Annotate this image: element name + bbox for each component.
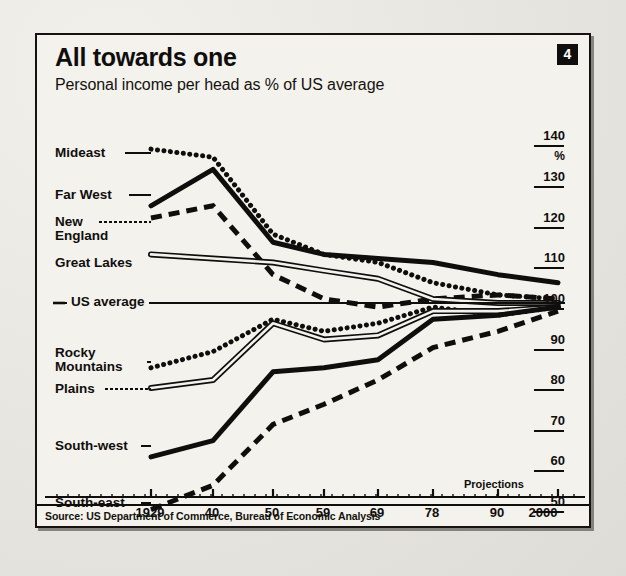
plot-area	[37, 35, 593, 530]
series-label-plains: Plains	[55, 382, 95, 396]
projections-note: Projections	[464, 478, 524, 490]
y-tick-rule-140	[534, 145, 564, 147]
series-label-south-east: South-east	[55, 496, 125, 510]
series-label-far-west: Far West	[55, 188, 112, 202]
source-caption: Source: US Department of Commerce, Burea…	[45, 510, 380, 522]
chart-figure: All towards one Personal income per head…	[35, 33, 591, 528]
y-tick-rule-80	[534, 389, 564, 391]
y-tick-label-130: 130	[531, 169, 565, 184]
series-far-west	[151, 169, 558, 282]
x-tick-label-2000: 2000	[529, 505, 558, 520]
series-label-great-lakes: Great Lakes	[55, 256, 132, 270]
y-tick-rule-130	[534, 186, 564, 188]
y-tick-label-110: 110	[531, 250, 565, 265]
series-plains	[151, 307, 558, 388]
y-tick-rule-120	[534, 227, 564, 229]
source-divider	[37, 504, 589, 506]
y-tick-rule-90	[534, 349, 564, 351]
y-tick-label-percent: %	[531, 149, 565, 163]
y-tick-rule-100	[534, 308, 564, 310]
series-label-new-england: New England	[55, 215, 108, 243]
x-tick-label-90: 90	[490, 505, 504, 520]
y-tick-label-140: 140	[531, 128, 565, 143]
series-label-mideast: Mideast	[55, 146, 105, 160]
y-tick-label-60: 60	[531, 453, 565, 468]
chart-svg	[37, 35, 593, 530]
series-layer	[151, 149, 558, 509]
series-label-rocky-mountains: Rocky Mountains	[55, 346, 123, 374]
y-tick-label-120: 120	[531, 210, 565, 225]
y-tick-label-90: 90	[531, 332, 565, 347]
axis-layer	[45, 303, 585, 497]
x-tick-label-78: 78	[425, 505, 439, 520]
y-tick-label-70: 70	[531, 413, 565, 428]
y-tick-rule-110	[534, 267, 564, 269]
y-tick-label-100: 100	[531, 291, 565, 306]
y-tick-rule-70	[534, 430, 564, 432]
us-average-label: US average	[67, 295, 149, 309]
series-label-south-west: South-west	[55, 439, 128, 453]
y-tick-rule-60	[534, 470, 564, 472]
y-tick-label-80: 80	[531, 372, 565, 387]
